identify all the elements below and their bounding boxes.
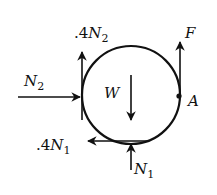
point-a-dot <box>176 93 181 98</box>
applied-force-label: F <box>184 24 196 42</box>
free-body-diagram: .4N2 N2 F W A .4N1 N1 <box>0 0 217 195</box>
wall-normal-label: N2 <box>23 72 44 93</box>
weight-label: W <box>104 84 121 102</box>
point-a-label: A <box>186 92 199 110</box>
floor-friction-label: .4N1 <box>36 136 70 157</box>
floor-normal-label: N1 <box>133 160 154 181</box>
wall-friction-label: .4N2 <box>74 24 108 45</box>
